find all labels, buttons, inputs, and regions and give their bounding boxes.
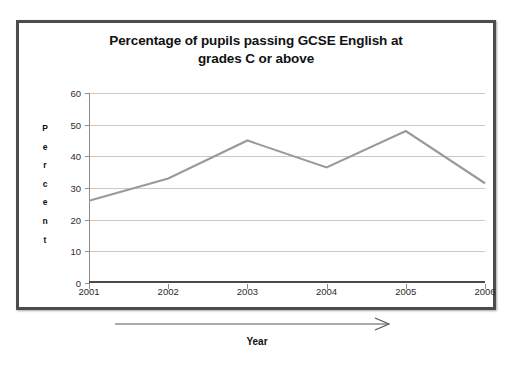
data-series-line bbox=[89, 93, 485, 283]
y-axis-title-letter: t bbox=[38, 231, 52, 250]
x-axis-tick-labels: 200120022003200420052006 bbox=[89, 286, 485, 306]
y-axis-tick-label: 20 bbox=[55, 214, 81, 225]
y-axis-title-letter: e bbox=[38, 193, 52, 212]
y-axis-title-letter: r bbox=[38, 156, 52, 175]
chart-title: Percentage of pupils passing GCSE Englis… bbox=[19, 32, 493, 68]
chart-title-line-2: grades C or above bbox=[19, 50, 493, 68]
y-axis-title-letter: n bbox=[38, 212, 52, 231]
y-axis-tick-label: 60 bbox=[55, 88, 81, 99]
y-axis-title-letter: P bbox=[38, 119, 52, 138]
x-axis-tick-label: 2002 bbox=[142, 286, 194, 297]
y-axis-tick-label: 30 bbox=[55, 183, 81, 194]
y-axis-title-letter: c bbox=[38, 175, 52, 194]
x-axis-line bbox=[89, 281, 485, 283]
year-annotation: Year bbox=[0, 316, 514, 367]
year-arrow-icon bbox=[113, 316, 399, 332]
x-axis-tick-label: 2004 bbox=[301, 286, 353, 297]
x-axis-title: Year bbox=[0, 336, 514, 347]
y-axis-tick-label: 10 bbox=[55, 246, 81, 257]
plot-area bbox=[89, 93, 485, 283]
y-axis-tick-label: 50 bbox=[55, 119, 81, 130]
x-axis-tick-label: 2006 bbox=[459, 286, 511, 297]
y-axis-tick-label: 40 bbox=[55, 151, 81, 162]
x-axis-tick-label: 2005 bbox=[380, 286, 432, 297]
y-axis-title-letter: e bbox=[38, 138, 52, 157]
y-axis-tick-labels: 6050403020100 bbox=[55, 93, 81, 283]
chart-frame: Percentage of pupils passing GCSE Englis… bbox=[16, 20, 496, 310]
x-axis-tick-label: 2001 bbox=[63, 286, 115, 297]
chart-title-line-1: Percentage of pupils passing GCSE Englis… bbox=[19, 32, 493, 50]
x-axis-tick-label: 2003 bbox=[221, 286, 273, 297]
plot-wrapper: 6050403020100 200120022003200420052006 bbox=[55, 93, 485, 313]
y-axis-title: P e r c e n t bbox=[38, 119, 52, 249]
